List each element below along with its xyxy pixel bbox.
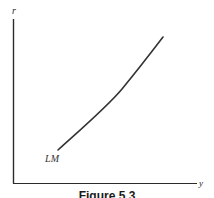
- lm-curve: [58, 37, 163, 150]
- plot-area: [0, 0, 214, 198]
- lm-curve-label: LM: [45, 153, 59, 164]
- x-axis-label: y: [199, 178, 203, 188]
- figure-caption: Figure 5.3: [0, 190, 214, 198]
- y-axis-label: r: [12, 6, 16, 16]
- lm-curve-figure: r y LM Figure 5.3: [0, 0, 214, 198]
